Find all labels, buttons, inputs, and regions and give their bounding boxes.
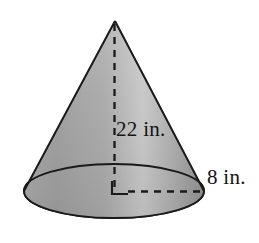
radius-label: 8 in. xyxy=(207,167,246,188)
cone-figure: 22 in. 8 in. xyxy=(0,0,259,243)
height-label: 22 in. xyxy=(116,119,166,140)
